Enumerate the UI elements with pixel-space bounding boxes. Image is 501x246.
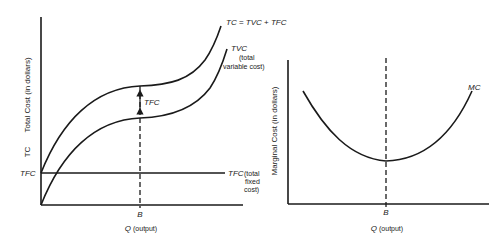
- cost-curves-figure: TFC TC = TVC + TFC TVC (total variable c…: [0, 0, 501, 246]
- tc-label-part-eq: =: [237, 18, 246, 27]
- mc-curve: [303, 91, 472, 161]
- tc-label-part-tc: TC: [226, 18, 237, 27]
- tvc-desc-line-1: (total: [239, 54, 255, 62]
- tc-label-part-tfc: TFC: [271, 18, 287, 27]
- tc-curve-label: TC = TVC + TFC: [226, 18, 287, 27]
- tc-label-part-plus: +: [262, 18, 271, 27]
- marginal-cost-chart: MC Marginal Cost (in dollars) B Q (outpu…: [270, 58, 489, 233]
- tc-y-symbol: TC: [23, 146, 32, 157]
- right-x-output: (output): [377, 225, 403, 233]
- total-cost-chart: TFC TC = TVC + TFC TVC (total variable c…: [20, 17, 287, 233]
- left-x-output: (output): [131, 225, 157, 233]
- left-x-axis-title: Q (output): [125, 224, 157, 233]
- tvc-curve-label: TVC: [231, 44, 247, 53]
- left-y-axis-title: Total Cost (in dollars): [23, 57, 32, 132]
- tfc-arrow-label: TFC: [144, 98, 160, 107]
- mc-curve-label: MC: [468, 83, 481, 92]
- tfc-desc-line-3: cost): [244, 186, 259, 194]
- tvc-desc-line-2: variable cost): [223, 63, 265, 71]
- tfc-y-tick: TFC: [20, 169, 36, 178]
- right-b-tick: B: [383, 208, 389, 217]
- right-y-axis-title: Marginal Cost (in dollars): [270, 86, 279, 175]
- tfc-desc-line-1: (total: [244, 170, 260, 178]
- left-b-tick: B: [137, 210, 143, 219]
- tc-label-part-tvc: TVC: [246, 18, 262, 27]
- tfc-line-label: TFC: [228, 169, 244, 178]
- tc-curve: [41, 26, 221, 173]
- right-x-axis-title: Q (output): [371, 224, 403, 233]
- tfc-desc-line-2: fixed: [245, 178, 260, 185]
- tvc-curve: [41, 49, 227, 205]
